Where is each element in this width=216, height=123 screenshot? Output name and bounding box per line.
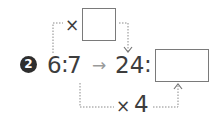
bottom-multiply-symbol: × xyxy=(116,96,130,116)
right-ratio-separator: : xyxy=(144,53,152,76)
problem-number-badge: 2 xyxy=(20,56,37,73)
bottom-multiplier-value: 4 xyxy=(134,93,149,116)
right-arrow-icon: → xyxy=(92,55,106,75)
top-multiply-symbol: × xyxy=(65,15,79,35)
right-ratio-antecedent: 24 xyxy=(115,54,144,77)
left-ratio-antecedent: 6 xyxy=(47,54,62,77)
answer-box-consequent[interactable] xyxy=(155,49,209,82)
answer-box-multiplier[interactable] xyxy=(82,8,116,41)
left-ratio-consequent: 7 xyxy=(67,54,82,77)
